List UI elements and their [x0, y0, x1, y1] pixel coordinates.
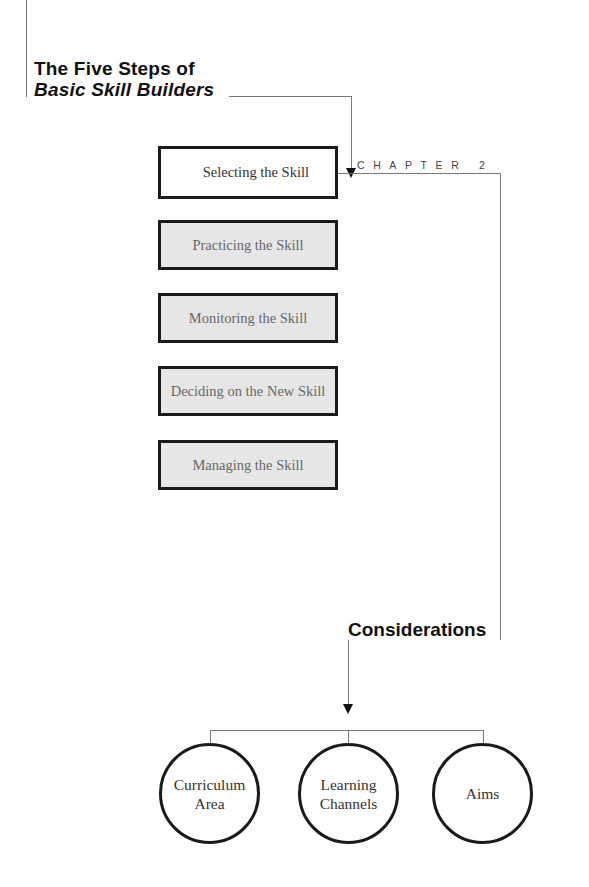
consideration-aims: Aims [432, 743, 533, 844]
margin-rule [26, 0, 27, 97]
consideration-label: Learning Channels [320, 775, 378, 813]
branch-drop-2 [348, 730, 349, 744]
arrow-down-icon [343, 704, 353, 714]
step-label: Deciding on the New Skill [171, 383, 326, 400]
title-line-2: Basic Skill Builders [34, 79, 214, 100]
chapter-connector-horizontal [338, 173, 500, 174]
consideration-label: Aims [466, 784, 500, 803]
step-practicing-the-skill: Practicing the Skill [158, 220, 338, 270]
step-label: Practicing the Skill [192, 237, 303, 254]
consideration-learning-channels: Learning Channels [298, 743, 399, 844]
step-deciding-on-the-new-skill: Deciding on the New Skill [158, 366, 338, 416]
consideration-label: Curriculum Area [174, 775, 245, 813]
branch-drop-1 [210, 730, 211, 744]
branch-drop-3 [483, 730, 484, 744]
considerations-heading: Considerations [348, 619, 486, 641]
step-selecting-the-skill: Selecting the Skill [158, 146, 338, 199]
branch-connector [210, 730, 483, 731]
step-monitoring-the-skill: Monitoring the Skill [158, 293, 338, 343]
consideration-curriculum-area: Curriculum Area [159, 743, 260, 844]
title-line-1: The Five Steps of [34, 58, 214, 79]
step-label: Selecting the Skill [203, 164, 309, 181]
considerations-connector-vertical [348, 640, 349, 705]
step-managing-the-skill: Managing the Skill [158, 440, 338, 490]
title-connector-vertical [351, 96, 352, 168]
chapter-connector-vertical [500, 173, 501, 640]
title-connector-horizontal [229, 96, 351, 97]
diagram-title: The Five Steps of Basic Skill Builders [34, 58, 214, 100]
step-label: Monitoring the Skill [189, 310, 307, 327]
step-label: Managing the Skill [192, 457, 303, 474]
chapter-label: CHAPTER 2 [357, 159, 493, 171]
